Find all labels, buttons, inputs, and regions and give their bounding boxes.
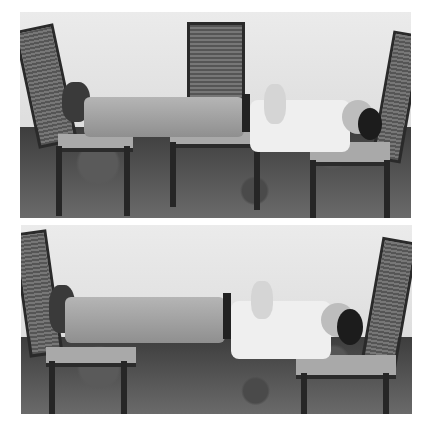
middle-chair-leg [254, 142, 260, 210]
right-chair-leg [301, 373, 307, 414]
middle-chair-leg [170, 142, 176, 207]
clasped-hands [264, 84, 286, 124]
right-chair-leg [383, 373, 389, 414]
belt [223, 293, 231, 339]
hair [337, 309, 363, 345]
right-chair-leg [310, 160, 316, 218]
left-chair-leg [49, 361, 55, 414]
left-chair-leg [124, 146, 130, 216]
pants [84, 97, 244, 137]
left-chair-leg [121, 361, 127, 414]
right-chair-leg [384, 160, 390, 218]
left-chair-leg [56, 146, 62, 216]
pants [65, 297, 225, 343]
belt [242, 94, 250, 132]
bottom-photo [21, 225, 412, 414]
shirt [231, 301, 331, 359]
hair [358, 108, 382, 140]
clasped-hands [251, 281, 273, 319]
top-photo [20, 12, 411, 218]
